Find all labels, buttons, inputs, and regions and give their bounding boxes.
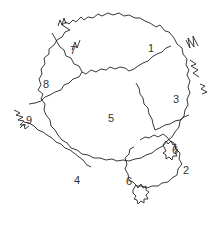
division-7-8	[52, 33, 82, 72]
foliage-cluster-6b	[133, 184, 149, 204]
region-label-7: 7	[70, 45, 76, 56]
crown-outline	[38, 13, 190, 161]
division-1-5	[82, 46, 171, 74]
division-5-4	[24, 122, 91, 167]
region-label-2: 2	[183, 165, 189, 176]
region-label-5: 5	[108, 113, 114, 124]
region-label-8: 8	[43, 79, 49, 90]
division-3-2	[155, 115, 189, 130]
region-label-6b: 6	[126, 176, 132, 187]
division-2-region	[125, 134, 182, 188]
division-8-9	[29, 72, 82, 104]
region-label-9: 9	[26, 115, 32, 126]
region-label-3: 3	[173, 94, 179, 105]
region-label-4: 4	[74, 175, 80, 186]
region-label-6a: 6	[172, 145, 178, 156]
foliage-spikes-top-right	[186, 36, 207, 94]
division-5-3	[136, 83, 155, 130]
region-label-1: 1	[148, 43, 154, 54]
